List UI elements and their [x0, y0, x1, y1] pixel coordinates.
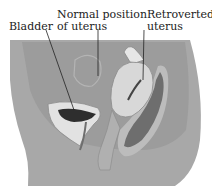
anatomy-illustration: [0, 0, 212, 186]
